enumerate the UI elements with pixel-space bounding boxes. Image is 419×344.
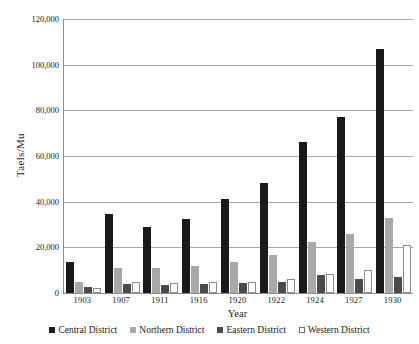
- bar[interactable]: [269, 255, 277, 293]
- y-axis-tick-label: 20,000: [36, 243, 59, 251]
- bar-group: [258, 19, 297, 293]
- bar[interactable]: [260, 183, 268, 293]
- bar[interactable]: [239, 283, 247, 293]
- legend: Central DistrictNorthern DistrictEastern…: [0, 325, 419, 335]
- bar[interactable]: [308, 242, 316, 293]
- legend-label: Northern District: [139, 325, 204, 335]
- legend-label: Central District: [58, 325, 117, 335]
- bar[interactable]: [132, 282, 140, 293]
- bar[interactable]: [287, 279, 295, 293]
- bar-group: [297, 19, 336, 293]
- legend-item[interactable]: Central District: [49, 325, 117, 335]
- bar[interactable]: [394, 277, 402, 293]
- bar[interactable]: [355, 279, 363, 293]
- x-axis-tick-label: 1920: [218, 295, 257, 309]
- legend-label: Western District: [308, 325, 370, 335]
- gridline: [64, 293, 413, 294]
- legend-item[interactable]: Northern District: [130, 325, 204, 335]
- bar[interactable]: [403, 245, 411, 293]
- y-axis-tick-label: 40,000: [36, 198, 59, 206]
- bar[interactable]: [385, 218, 393, 293]
- bar[interactable]: [337, 117, 345, 293]
- bar-group: [374, 19, 413, 293]
- bar-chart: Taels/Mu 120,000100,00080,00060,00040,00…: [0, 0, 419, 344]
- x-axis-tick-label: 1916: [179, 295, 218, 309]
- bar[interactable]: [209, 282, 217, 293]
- legend-swatch-icon: [130, 327, 136, 333]
- bar[interactable]: [221, 199, 229, 293]
- bar-group: [64, 19, 103, 293]
- legend-swatch-icon: [217, 327, 223, 333]
- y-axis-tick-label: 60,000: [36, 152, 59, 160]
- legend-swatch-icon: [49, 327, 55, 333]
- bar[interactable]: [326, 274, 334, 293]
- bar[interactable]: [170, 283, 178, 293]
- bar[interactable]: [105, 214, 113, 293]
- bar[interactable]: [230, 262, 238, 293]
- bar-group: [103, 19, 142, 293]
- y-axis-tick-label: 80,000: [36, 106, 59, 114]
- legend-swatch-icon: [299, 327, 305, 333]
- bar[interactable]: [66, 262, 74, 293]
- bar[interactable]: [346, 234, 354, 293]
- x-axis-tick-label: 1922: [257, 295, 296, 309]
- x-axis-tick-labels: 190319071911191619201922192419271930: [63, 295, 412, 309]
- legend-item[interactable]: Eastern District: [217, 325, 285, 335]
- bar[interactable]: [376, 49, 384, 293]
- bar[interactable]: [317, 275, 325, 293]
- x-axis-tick-label: 1903: [63, 295, 102, 309]
- bar[interactable]: [114, 268, 122, 293]
- bar[interactable]: [161, 285, 169, 293]
- x-axis-title: Year: [63, 308, 412, 319]
- plot-area: [63, 19, 413, 294]
- bar[interactable]: [152, 268, 160, 293]
- x-axis-tick-label: 1930: [373, 295, 412, 309]
- y-axis-tick-label: 0: [55, 289, 59, 297]
- bar[interactable]: [123, 284, 131, 293]
- y-axis-tick-label: 100,000: [31, 61, 59, 69]
- bar[interactable]: [93, 288, 101, 293]
- y-axis-tick-label: 120,000: [31, 15, 59, 23]
- bar[interactable]: [278, 282, 286, 293]
- bar[interactable]: [75, 282, 83, 293]
- x-axis-tick-label: 1924: [296, 295, 335, 309]
- bar[interactable]: [248, 282, 256, 293]
- legend-label: Eastern District: [226, 325, 285, 335]
- bar[interactable]: [191, 266, 199, 293]
- bar[interactable]: [84, 287, 92, 293]
- x-axis-tick-label: 1911: [141, 295, 180, 309]
- bar[interactable]: [299, 142, 307, 293]
- bar-group: [219, 19, 258, 293]
- bar-group: [180, 19, 219, 293]
- bar-groups: [64, 19, 413, 293]
- y-axis-tick-labels: 120,000100,00080,00060,00040,00020,0000: [18, 0, 62, 344]
- x-axis-tick-label: 1927: [334, 295, 373, 309]
- bar-group: [335, 19, 374, 293]
- legend-item[interactable]: Western District: [299, 325, 370, 335]
- x-axis-tick-label: 1907: [102, 295, 141, 309]
- bar[interactable]: [182, 219, 190, 293]
- bar[interactable]: [200, 284, 208, 293]
- bar[interactable]: [143, 227, 151, 293]
- bar-group: [142, 19, 181, 293]
- bar[interactable]: [364, 270, 372, 293]
